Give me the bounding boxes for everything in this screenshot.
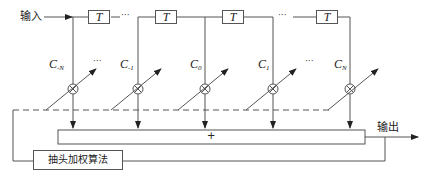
tap-label-cn: CN [334,58,347,72]
ellipsis-delay-1: ··· [121,10,130,20]
tap-label-c1: C1 [258,58,270,72]
ellipsis-delay-2: ··· [278,10,287,20]
tap-label-c-minus-n: C-N [49,58,64,72]
delay-block-4: T [316,10,338,24]
delay-block-3: T [222,10,244,24]
transversal-filter-diagram: 输入 输出 T T T T ··· ··· ··· ··· C-N C-1 C0… [0,0,424,179]
output-label: 输出 [377,122,399,133]
delay-block-1: T [88,10,110,24]
ellipsis-tap-2: ··· [305,56,314,66]
delay-block-2: T [155,10,177,24]
input-label: 输入 [20,11,42,22]
tap-label-c0: C0 [190,58,202,72]
ellipsis-tap-1: ··· [93,56,102,66]
tap-weight-algorithm-block: 抽头加权算法 [33,150,123,170]
sum-label: + [207,131,215,141]
tap-label-c-minus-1: C-1 [120,58,134,72]
